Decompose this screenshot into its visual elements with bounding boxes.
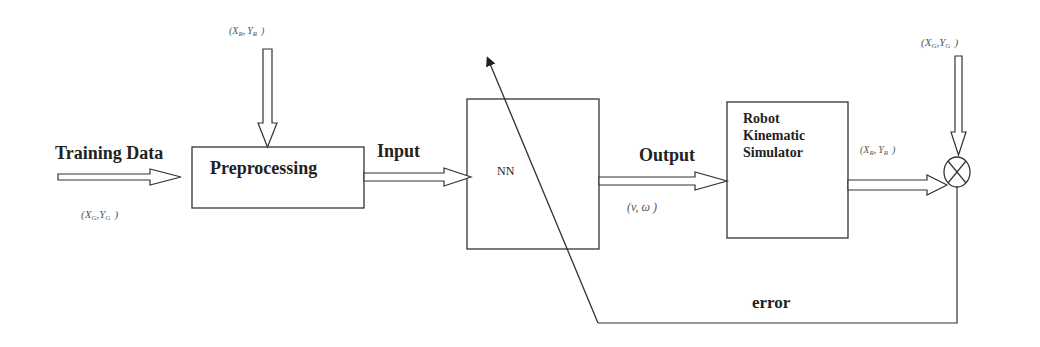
- diagram-canvas: Preprocessing NN Robot Kinematic Simulat…: [0, 0, 1040, 347]
- goal-reference-down-arrow: [951, 56, 966, 155]
- input-label: Input: [377, 141, 420, 161]
- robot-pose-down-arrow: [258, 49, 277, 147]
- robot-pose-to-preprocessing-label: (XR,YR): [229, 25, 265, 38]
- svg-text:(XR,YR): (XR,YR): [860, 144, 896, 157]
- nn-output-signal-label: (v, ω ): [627, 200, 657, 214]
- robot-label-line-2: Kinematic: [743, 128, 805, 143]
- summing-junction: [944, 157, 970, 187]
- robot-output-arrow: [848, 175, 947, 195]
- robot-simulator-block: Robot Kinematic Simulator: [727, 102, 848, 238]
- output-label: Output: [639, 145, 695, 165]
- preprocessing-label: Preprocessing: [210, 158, 317, 178]
- nn-block: NN: [467, 99, 599, 249]
- preprocessing-block: Preprocessing: [192, 147, 364, 208]
- svg-text:(XR,YR): (XR,YR): [229, 25, 265, 38]
- input-arrow: [364, 168, 471, 186]
- robot-output-signal-label: (XR,YR): [860, 144, 896, 157]
- goal-training-signal-label: (XG,YG): [81, 208, 118, 222]
- svg-text:(XG,YG): (XG,YG): [921, 36, 958, 50]
- error-label: error: [752, 293, 791, 312]
- nn-label: NN: [497, 164, 515, 178]
- robot-label-line-1: Robot: [743, 111, 780, 126]
- output-arrow: [599, 172, 727, 190]
- svg-text:(XG,YG): (XG,YG): [81, 208, 118, 222]
- training-data-label: Training Data: [55, 143, 163, 163]
- robot-label-line-3: Simulator: [743, 145, 803, 160]
- goal-reference-signal-label: (XG,YG): [921, 36, 958, 50]
- training-data-arrow: [58, 169, 181, 185]
